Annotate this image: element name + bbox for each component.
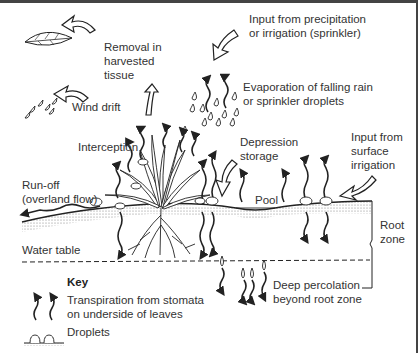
key-transpiration-label: Transpiration from stomata on underside … [67, 293, 204, 321]
key-transpiration-icon [34, 296, 54, 320]
key-title: Key [67, 275, 88, 289]
falling-droplets [182, 92, 239, 134]
label-depression-storage: Depression storage [240, 135, 298, 163]
key-droplets-label: Droplets [67, 325, 110, 339]
label-deep-percolation: Deep percolation beyond root zone [273, 278, 362, 306]
label-runoff: Run-off (overland flow) [22, 178, 97, 206]
outline-arrow-removal [145, 84, 158, 115]
label-root-zone: Root zone [380, 218, 405, 246]
outline-arrow-depression [216, 160, 237, 196]
key-droplets-icon [24, 335, 64, 346]
outline-arrow-leaf [62, 16, 95, 33]
label-input-precipitation: Input from precipitation or irrigation (… [249, 12, 366, 40]
wind-droplets [25, 98, 57, 118]
label-input-surface-irrigation: Input from surface irrigation [351, 130, 403, 172]
label-water-table: Water table [22, 243, 80, 257]
surface-droplets [90, 159, 332, 209]
evaporation-arrows [206, 76, 228, 112]
label-removal: Removal in harvested tissue [104, 40, 162, 82]
label-wind-drift: Wind drift [72, 100, 121, 114]
root-zone-bracket [362, 201, 372, 288]
label-evaporation: Evaporation of falling rain or sprinkler… [243, 80, 373, 108]
label-interception: Interception [78, 140, 138, 154]
water-table-line [22, 260, 370, 262]
label-pool: Pool [255, 193, 278, 207]
outline-arrow-precip [213, 30, 238, 60]
outline-arrow-surface-irrigation [340, 176, 376, 200]
leaf-icon [25, 32, 72, 45]
percolation-droplets [221, 256, 266, 278]
plant-roots [128, 208, 195, 258]
